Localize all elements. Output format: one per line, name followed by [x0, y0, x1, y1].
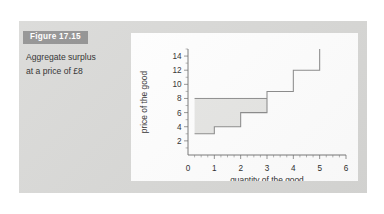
x-axis-title: quantity of the good [230, 175, 304, 181]
chart-svg: 24681012140123456quantity of the goodpri… [131, 33, 358, 181]
screenshot-root: Figure 17.15 Aggregate surplus at a pric… [0, 0, 384, 214]
y-axis-title: price of the good [139, 70, 149, 133]
chart-panel: 24681012140123456quantity of the goodpri… [131, 33, 358, 181]
surplus-shaded-region [195, 98, 267, 133]
x-tick-label: 2 [238, 164, 243, 173]
figure-caption-column: Figure 17.15 Aggregate surplus at a pric… [23, 25, 123, 78]
y-tick-label: 8 [177, 94, 182, 103]
x-tick-label: 3 [265, 164, 270, 173]
y-tick-label: 2 [177, 137, 182, 146]
y-tick-label: 14 [172, 52, 182, 61]
y-tick-label: 6 [177, 109, 182, 118]
x-tick-label: 5 [317, 164, 322, 173]
figure-card: Figure 17.15 Aggregate surplus at a pric… [19, 21, 367, 193]
x-tick-label: 6 [344, 164, 349, 173]
figure-caption-text: Aggregate surplus at a price of £8 [23, 51, 104, 78]
x-tick-label: 4 [291, 164, 296, 173]
y-tick-label: 10 [172, 80, 182, 89]
x-tick-label: 1 [212, 164, 217, 173]
y-tick-label: 4 [177, 123, 182, 132]
chart-render-group: 24681012140123456quantity of the goodpri… [139, 49, 349, 181]
x-tick-label: 0 [186, 164, 191, 173]
figure-number-badge: Figure 17.15 [23, 31, 88, 45]
y-tick-label: 12 [172, 66, 182, 75]
